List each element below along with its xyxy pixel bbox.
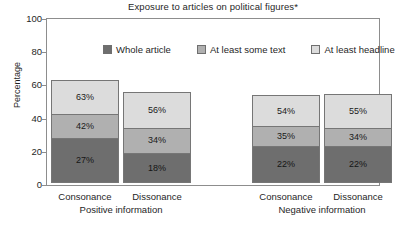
bar-stack[interactable]: 54%35%22% [252,95,320,185]
bar-segment-label: 22% [277,160,295,169]
y-tick-label: 40 [8,114,42,124]
legend-swatch-icon [197,45,206,54]
bar-segment[interactable]: 27% [51,138,119,183]
legend-swatch-icon [103,45,112,54]
x-group-label: Positive information [61,204,181,215]
bar-segment[interactable]: 55% [324,94,392,129]
bar-stack[interactable]: 56%34%18% [123,92,191,185]
y-tick-label: 0 [8,180,42,190]
legend-item[interactable]: At least some text [197,44,286,55]
bar-segment[interactable]: 34% [324,128,392,148]
legend-label: Whole article [116,44,171,55]
bar-segment-label: 34% [148,136,166,145]
legend-label: At least headline [324,44,394,55]
y-tick-label: 60 [8,80,42,90]
bar-segment-label: 22% [349,160,367,169]
bar-segment-label: 54% [277,107,295,116]
legend-swatch-icon [311,45,320,54]
bar-segment[interactable]: 35% [252,126,320,148]
y-tick-label: 100 [8,14,42,24]
legend-item[interactable]: At least headline [311,44,394,55]
bar-segment-label: 42% [76,122,94,131]
y-tick-label: 80 [8,47,42,57]
chart-legend: Whole articleAt least some textAt least … [103,44,395,55]
y-tick-label: 20 [8,147,42,157]
legend-item[interactable]: Whole article [103,44,171,55]
bar-segment[interactable]: 56% [123,92,191,129]
plot-frame: 63%42%27%56%34%18%54%35%22%55%34%22% Who… [46,18,380,186]
bar-segment[interactable]: 18% [123,153,191,183]
chart-title: Exposure to articles on political figure… [46,1,380,12]
bar-segment-label: 56% [148,106,166,115]
x-category-label: Dissonance [315,191,399,202]
bar-stack[interactable]: 63%42%27% [51,80,119,185]
bar-segment-label: 35% [277,132,295,141]
bar-segment[interactable]: 22% [252,146,320,183]
bar-segment[interactable]: 34% [123,128,191,155]
bar-stack[interactable]: 55%34%22% [324,94,392,185]
x-category-label: Dissonance [114,191,200,202]
x-group-label: Negative information [262,204,382,215]
bar-segment-label: 63% [76,93,94,102]
bar-segment-label: 18% [148,164,166,173]
bar-segment[interactable]: 54% [252,95,320,127]
bar-segment-label: 34% [349,133,367,142]
bar-segment[interactable]: 22% [324,146,392,183]
bar-segment[interactable]: 63% [51,80,119,115]
bar-segment-label: 27% [76,156,94,165]
bar-segment[interactable]: 42% [51,114,119,139]
legend-label: At least some text [210,44,286,55]
bar-segment-label: 55% [349,107,367,116]
